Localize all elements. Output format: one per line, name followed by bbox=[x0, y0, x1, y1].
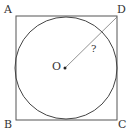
label-d: D bbox=[117, 4, 126, 15]
label-unknown-length: ? bbox=[91, 44, 96, 54]
label-c: C bbox=[118, 119, 126, 130]
center-point-o bbox=[64, 67, 67, 70]
geometry-figure bbox=[0, 0, 129, 131]
label-o: O bbox=[52, 61, 61, 72]
label-a: A bbox=[4, 4, 12, 15]
label-b: B bbox=[4, 119, 12, 130]
